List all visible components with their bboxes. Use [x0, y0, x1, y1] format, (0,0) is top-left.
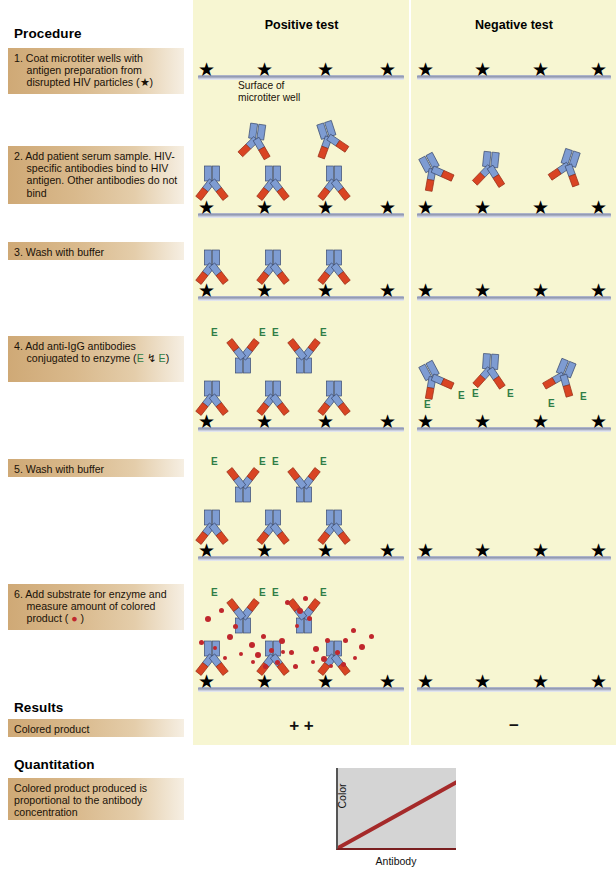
well-surface-neg-step4: [417, 427, 611, 432]
step-3-text: Wash with buffer: [26, 246, 104, 258]
colored-product-dot: [227, 634, 233, 640]
positive-test-column: Positive test Surface of microtiter well: [193, 0, 410, 878]
colored-product-dot: [219, 608, 224, 613]
well-surface-pos-step2: [198, 213, 404, 218]
enzyme-label: E: [211, 327, 218, 338]
colored-product-dot: [369, 634, 374, 639]
colored-product-dot: [251, 660, 255, 664]
colored-product-dot: [335, 650, 340, 655]
procedure-step-4: 4. Add anti-IgG antibodies conjugated to…: [8, 336, 184, 382]
colored-product-dot: [279, 638, 285, 644]
free-antibody: [301, 112, 357, 164]
free-conjugate-antibody: [403, 350, 462, 407]
bound-antibody: [311, 637, 357, 677]
quantitation-text: Colored product produced is proportional…: [14, 782, 178, 819]
procedure-column: Procedure 1. Coat microtiter wells with …: [0, 0, 193, 878]
enzyme-label: E: [548, 398, 555, 409]
surface-annotation: Surface of microtiter well: [238, 80, 300, 103]
well-surface-neg-step6: [417, 687, 611, 692]
well-surface-neg-step3: [417, 296, 611, 301]
bound-antibody: [250, 506, 296, 546]
surface-annotation-line1: Surface of: [238, 80, 300, 92]
well-surface-pos-step3: [198, 296, 404, 301]
well-surface-pos-step4: [198, 427, 404, 432]
positive-result-symbol: + +: [193, 716, 410, 736]
colored-product-dot: [359, 644, 365, 650]
results-heading: Results: [14, 700, 63, 715]
colored-product-dot: [325, 638, 330, 643]
free-antibody: [403, 142, 462, 199]
step-4-enzyme-left: E: [137, 352, 144, 364]
colored-product-dot: [255, 652, 261, 658]
colored-product-dot: [307, 616, 312, 621]
well-surface-pos-step1: [198, 75, 404, 80]
colored-product-dot: [351, 628, 356, 633]
free-antibody: [540, 140, 596, 192]
procedure-step-6: 6. Add substrate for enzyme and measure …: [8, 584, 184, 630]
colored-product-dot: [269, 648, 274, 653]
step-2-number: 2.: [14, 150, 23, 162]
enzyme-label: E: [272, 587, 279, 598]
enzyme-label: E: [320, 587, 327, 598]
enzyme-label: E: [320, 327, 327, 338]
bound-antibody: [311, 162, 357, 202]
colored-product-dot: [295, 624, 299, 628]
conjugate-antibody: [220, 597, 266, 637]
step-4-text-post: ): [166, 352, 170, 364]
bound-antibody: [250, 377, 296, 417]
well-surface-neg-step5: [417, 556, 611, 561]
step-3-number: 3.: [14, 246, 23, 258]
enzyme-label: E: [507, 388, 514, 399]
bound-antibody: [250, 246, 296, 286]
colored-product-dot: [275, 660, 280, 665]
colored-product-dot: [343, 638, 348, 643]
enzyme-label: E: [259, 327, 266, 338]
step-6-number: 6.: [14, 588, 23, 600]
enzyme-label: E: [580, 391, 587, 402]
colored-product-dot: [303, 596, 308, 601]
results-row-label: Colored product: [14, 723, 178, 735]
procedure-step-2: 2. Add patient serum sample. HIV-specifi…: [8, 146, 184, 204]
colored-product-dot: [281, 650, 285, 654]
bound-antibody: [250, 162, 296, 202]
free-antibody: [465, 146, 515, 191]
well-surface-pos-step5: [198, 556, 404, 561]
colored-product-dot: [311, 660, 315, 664]
step-5-number: 5.: [14, 463, 23, 475]
conjugate-antibody: [281, 337, 327, 377]
enzyme-label: E: [320, 456, 327, 467]
procedure-step-1: 1. Coat microtiter wells with antigen pr…: [8, 48, 184, 94]
negative-test-column: Negative test: [412, 0, 616, 878]
step-6-text-pre: Add substrate for enzyme and measure amo…: [25, 588, 166, 624]
procedure-step-3: 3. Wash with buffer: [8, 242, 184, 260]
colored-product-dot: [213, 646, 217, 650]
step-1-number: 1.: [14, 52, 23, 64]
quantitation-chart: [336, 768, 456, 850]
colored-product-dot: [353, 656, 357, 660]
enzyme-label: E: [272, 327, 279, 338]
chart-plot-area: [338, 768, 456, 848]
illustration-panel: Positive test Surface of microtiter well: [193, 0, 616, 878]
quantitation-heading: Quantitation: [14, 757, 95, 772]
colored-product-dot: [313, 646, 319, 652]
colored-product-dot: [205, 616, 211, 622]
colored-product-dot: [293, 664, 298, 669]
bound-antibody: [189, 377, 235, 417]
enzyme-label: E: [272, 456, 279, 467]
step-2-text: Add patient serum sample. HIV-specific a…: [25, 150, 177, 199]
chart-x-axis-label: Antibody: [336, 855, 456, 867]
colored-product-dot: [223, 656, 227, 660]
enzyme-label: E: [259, 456, 266, 467]
conjugate-antibody: [281, 466, 327, 506]
colored-product-dot: [261, 634, 266, 639]
well-surface-pos-step6: [198, 687, 404, 692]
step-1-text: Coat microtiter wells with antigen prepa…: [26, 52, 153, 88]
bound-antibody: [311, 246, 357, 286]
elisa-figure: Procedure 1. Coat microtiter wells with …: [0, 0, 616, 878]
enzyme-label: E: [458, 390, 465, 401]
colored-product-dot: [289, 650, 294, 655]
bound-antibody: [189, 162, 235, 202]
enzyme-label: E: [211, 456, 218, 467]
results-row-label-box: Colored product: [8, 719, 184, 737]
procedure-step-5: 5. Wash with buffer: [8, 459, 184, 477]
